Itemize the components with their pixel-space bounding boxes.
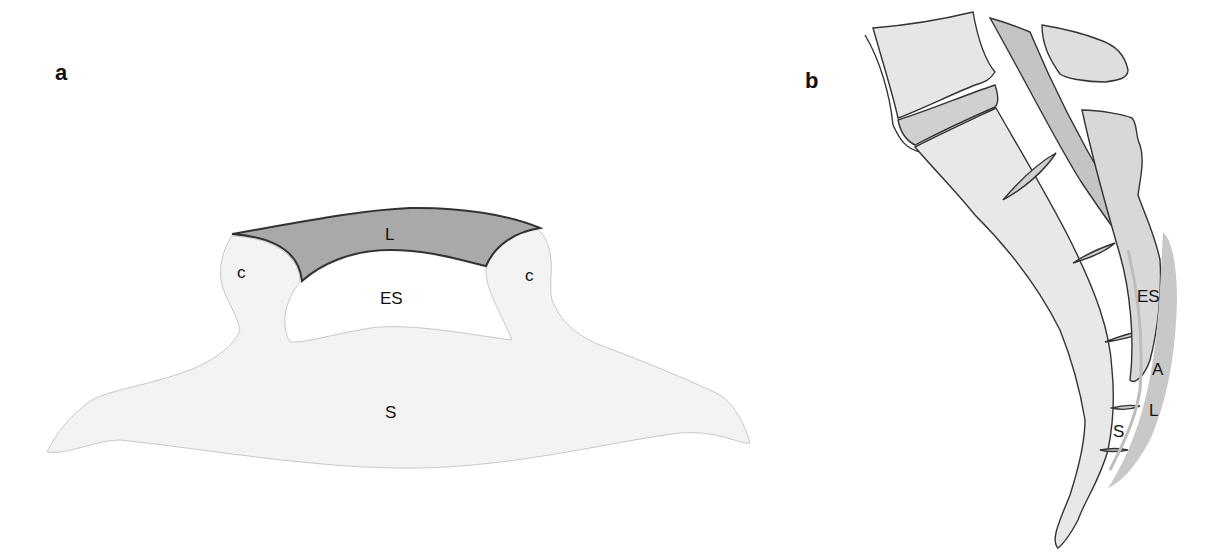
spinous-process-upper-b (1042, 25, 1128, 82)
panel-a-diagram: L ES c c S (47, 208, 750, 468)
label-sacrum-b: S (1113, 422, 1124, 441)
label-ligament-a: L (385, 225, 394, 244)
panel-b-diagram: ES A L S (865, 12, 1177, 548)
label-epidural-space-a: ES (380, 289, 403, 308)
label-sacrum-a: S (385, 403, 396, 422)
label-cornu-left-a: c (237, 263, 246, 282)
sacral-segment-line-2 (1073, 243, 1115, 263)
label-cornu-right-a: c (525, 266, 534, 285)
label-adipose-b: A (1152, 360, 1164, 379)
sacrum-shape-a (47, 228, 750, 468)
label-ligament-b: L (1149, 401, 1158, 420)
sacral-segment-line-5 (1100, 449, 1128, 452)
figure-canvas: L ES c c S ES A L S (0, 0, 1223, 560)
label-epidural-space-b: ES (1137, 287, 1160, 306)
